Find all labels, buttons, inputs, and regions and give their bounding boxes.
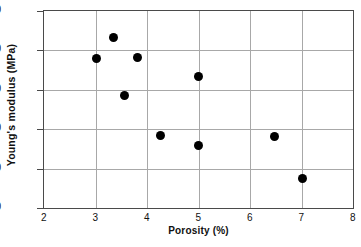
x-tick-label-text: 7 — [299, 212, 305, 223]
data-point — [156, 131, 165, 140]
data-point — [133, 53, 142, 62]
data-points-layer — [44, 11, 353, 208]
data-point — [194, 72, 203, 81]
x-tick-label-text: 8 — [350, 212, 356, 223]
scatter-chart-figure: Young's modulus (MPa) 304050607080 23456… — [0, 0, 361, 247]
x-axis-title: Porosity (%) — [43, 225, 354, 236]
x-tick-label-text: 2 — [41, 212, 47, 223]
x-tick-label-text: 3 — [93, 212, 99, 223]
x-tick-label-text: 6 — [247, 212, 253, 223]
x-tick-label-text: 4 — [144, 212, 150, 223]
plot-area — [43, 10, 354, 209]
data-point — [194, 141, 203, 150]
data-point — [120, 91, 129, 100]
data-point — [298, 174, 307, 183]
data-point — [270, 132, 279, 141]
data-point — [92, 54, 101, 63]
x-tick-label-text: 5 — [196, 212, 202, 223]
data-point — [109, 33, 118, 42]
